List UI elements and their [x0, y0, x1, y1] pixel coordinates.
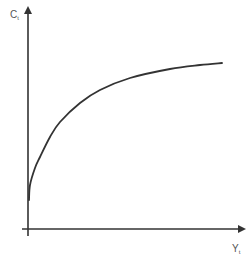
- consumption-curve: [29, 63, 222, 200]
- x-axis-label: Yt: [232, 244, 240, 255]
- y-axis-label: Ct: [10, 10, 19, 21]
- chart-canvas: [0, 0, 252, 262]
